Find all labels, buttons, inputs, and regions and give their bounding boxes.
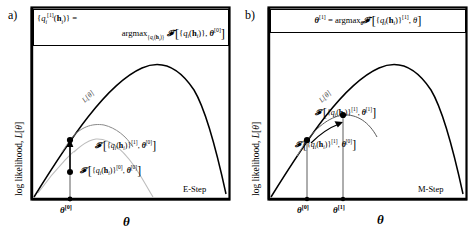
panel-b-formula-box: θ[1] = argmaxθ𝓕 [{qi(hi)}[1], θ] <box>270 9 466 33</box>
panel-b-tick-theta1: θ[1] <box>333 204 345 215</box>
panel-b-tick-theta0: θ[0] <box>297 204 309 215</box>
panel-b-formula-line-1: θ[1] = argmaxθ𝓕 [{qi(hi)}[1], θ] <box>315 13 422 29</box>
panel-b-theta1-axis-point <box>341 197 345 201</box>
panel-a-step-label: E-Step <box>183 184 206 194</box>
panel-a-formula-line-1: {qi[1](hi)} = <box>37 12 225 26</box>
panel-a-theta0-axis-point <box>68 197 73 202</box>
panel-b-bound-label-lower: 𝓕 [{qi(hi)}[1], θ[0]] <box>295 138 356 152</box>
panel-a-tick-theta0: θ[0] <box>60 204 72 215</box>
panel-a-upper-bound-point <box>67 137 73 143</box>
panel-a-bound-label-lower: 𝓕 [{qi(hi)}[0], θ[0]] <box>80 164 141 178</box>
panel-b-bound-label-upper: 𝓕 [{qi(hi)}[1], θ[1]] <box>315 106 376 120</box>
panel-b-x-axis-label: θ <box>377 212 384 228</box>
panel-b-theta0-axis-point <box>305 197 309 201</box>
panel-a-bound-label-upper: 𝓕 [{qi(hi)}[1], θ[0]] <box>95 139 156 153</box>
panel-b: b) log likelihood, L[θ] L[θ] <box>237 0 474 239</box>
panel-a-formula-line-2: argmax{qi(hi)} 𝓕 [{qi(hi)}, θ[0]] <box>37 26 225 43</box>
panel-a-x-axis-label: θ <box>123 214 130 230</box>
panel-a: a) log likelihood, L[θ] <box>0 0 237 239</box>
em-algorithm-figure: a) log likelihood, L[θ] <box>0 0 474 239</box>
panel-b-frame <box>269 8 467 200</box>
panel-a-formula-box: {qi[1](hi)} = argmax{qi(hi)} 𝓕 [{qi(hi)}… <box>33 9 229 46</box>
panel-a-lower-bound-point <box>67 169 73 175</box>
panel-b-step-label: M-Step <box>418 184 444 194</box>
